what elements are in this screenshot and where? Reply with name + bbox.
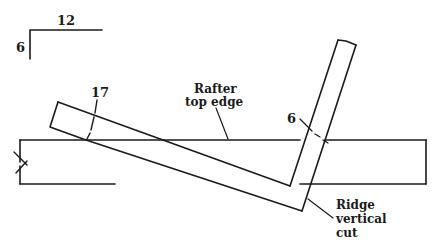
ridge-vertical-cut-label-line3: cut xyxy=(336,226,358,240)
dimension-17: 17 xyxy=(87,85,109,139)
pitch-run-label: 12 xyxy=(57,13,75,28)
rafter-inner-vertical-edge xyxy=(290,40,338,186)
rafter-left-end xyxy=(50,102,86,140)
rafter-top-cap xyxy=(338,40,356,45)
rafter-top-edge-leader xyxy=(216,108,228,139)
pitch-triangle-lines xyxy=(30,30,102,59)
callout-rafter-top-edge: Rafter top edge xyxy=(185,82,244,139)
pitch-symbol: 12 6 xyxy=(16,13,102,59)
dimension-6-label: 6 xyxy=(287,111,296,126)
ridge-vertical-cut-leader xyxy=(308,199,333,218)
rafter-top-edge-label-line2: top edge xyxy=(185,95,244,109)
rafter-upper-edge xyxy=(58,102,290,186)
ridge-vertical-cut-label-line1: Ridge xyxy=(336,198,375,212)
ridge-vertical-cut-label-line2: vertical xyxy=(335,212,387,226)
pitch-rise-label: 6 xyxy=(16,40,25,55)
rafter-diagram: 12 6 xyxy=(0,0,442,249)
dimension-6: 6 xyxy=(287,111,328,143)
board-stock xyxy=(14,140,426,184)
callout-ridge-vertical-cut: Ridge vertical cut xyxy=(308,198,387,240)
dimension-17-label: 17 xyxy=(91,85,109,100)
rafter-outline xyxy=(50,40,356,211)
rafter-top-edge-label-line1: Rafter xyxy=(194,82,237,96)
